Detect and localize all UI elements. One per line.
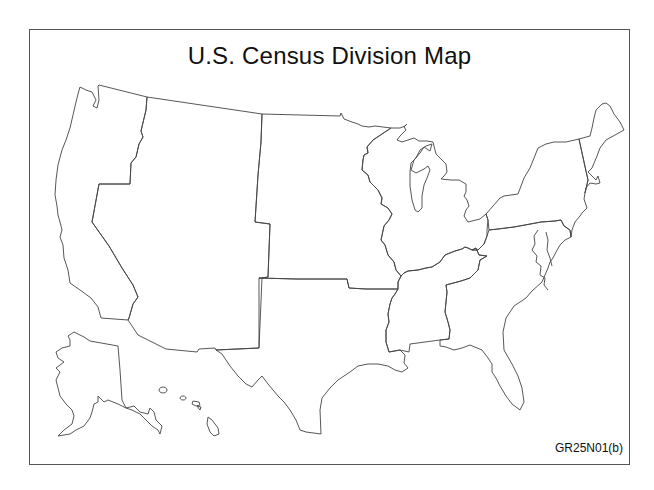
- inset-hawaii-big-island: [207, 417, 219, 436]
- division-west-south-central: [216, 278, 408, 434]
- division-south-atlantic: [440, 220, 571, 410]
- inset-hawaii-oahu: [180, 396, 186, 400]
- division-west-north-central: [255, 113, 401, 289]
- inset-alaska: [56, 332, 162, 436]
- census-division-map: [0, 0, 654, 490]
- inset-hawaii-maui: [192, 401, 201, 410]
- division-east-south-central: [386, 247, 487, 352]
- division-mountain: [92, 97, 270, 352]
- inset-hawaii-kauai: [159, 387, 167, 393]
- lake-michigan: [410, 144, 432, 212]
- division-new-england: [579, 103, 624, 193]
